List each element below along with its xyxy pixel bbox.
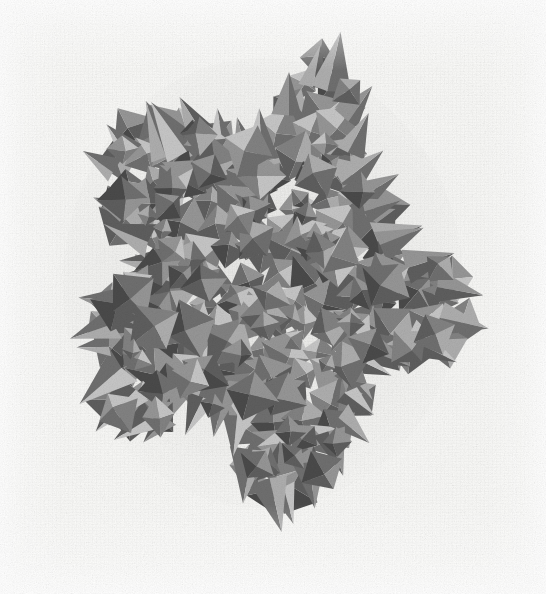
figure-page <box>0 0 546 594</box>
polyhedron-facet <box>452 255 473 278</box>
facet-group <box>70 32 489 532</box>
cluster-illustration <box>0 0 546 594</box>
polyhedral-cluster-figure <box>0 0 546 594</box>
